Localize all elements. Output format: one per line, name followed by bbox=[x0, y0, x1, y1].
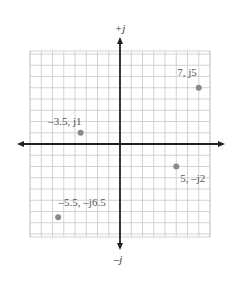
real-axis bbox=[17, 141, 225, 147]
points: 7, j5–3.5, j15, –j2–5.5, –j6.5 bbox=[47, 66, 205, 220]
up-arrow-icon bbox=[117, 37, 123, 44]
complex-plane: +j –j 7, j5–3.5, j15, –j2–5.5, –j6.5 bbox=[0, 0, 234, 281]
point-label: 7, j5 bbox=[177, 66, 197, 78]
positive-imag-label: +j bbox=[115, 22, 125, 34]
data-point bbox=[196, 85, 202, 91]
negative-imag-label: –j bbox=[113, 253, 123, 265]
right-arrow-icon bbox=[218, 141, 225, 147]
point-label: 5, –j2 bbox=[180, 172, 205, 184]
data-point bbox=[55, 214, 61, 220]
down-arrow-icon bbox=[117, 243, 123, 250]
point-label: –3.5, j1 bbox=[47, 115, 81, 127]
data-point bbox=[173, 164, 179, 170]
point-label: –5.5, –j6.5 bbox=[58, 196, 107, 208]
data-point bbox=[78, 130, 84, 136]
left-arrow-icon bbox=[17, 141, 24, 147]
